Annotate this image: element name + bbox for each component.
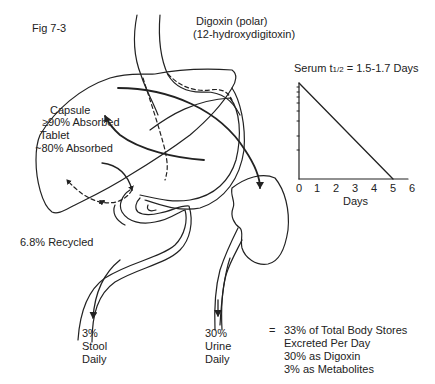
tablet-label: Tablet <box>40 129 69 142</box>
figure-label: Fig 7-3 <box>32 22 66 35</box>
x-tick-5: 5 <box>390 182 396 195</box>
x-tick-6: 6 <box>409 182 415 195</box>
stool-route: Stool <box>82 340 107 353</box>
capsule-label: Capsule <box>50 104 90 117</box>
graph-title-suffix: = 1.5-1.7 Days <box>344 62 419 74</box>
recycled-arrow-mid <box>100 201 104 203</box>
recycled-arrow <box>67 180 132 203</box>
graph-title-prefix: Serum t <box>294 62 333 74</box>
x-tick-4: 4 <box>371 182 377 195</box>
graph-title: Serum t1/2 = 1.5-1.7 Days <box>294 62 419 77</box>
stool-pct: 3% <box>82 327 98 340</box>
capsule-absorption: ≥90% Absorbed <box>42 116 120 129</box>
x-tick-1: 1 <box>314 182 320 195</box>
urine-pct: 30% <box>205 327 227 340</box>
urine-freq: Daily <box>205 353 229 366</box>
drug-name: Digoxin (polar) <box>196 15 268 28</box>
ureter <box>215 228 242 330</box>
drug-description: (12-hydroxydigitoxin) <box>193 28 295 41</box>
x-tick-3: 3 <box>352 182 358 195</box>
kidney <box>232 176 289 265</box>
summary-line-2: Excreted Per Day <box>284 337 370 350</box>
serum-graph <box>297 83 408 179</box>
summary-line-1: 33% of Total Body Stores <box>284 324 407 337</box>
urine-route: Urine <box>205 340 231 353</box>
x-tick-2: 2 <box>333 182 339 195</box>
stool-freq: Daily <box>82 353 106 366</box>
duodenum <box>78 190 191 342</box>
tablet-absorption: ~80% Absorbed <box>35 142 113 155</box>
summary-line-3: 30% as Digoxin <box>284 350 360 363</box>
summary-line-4: 3% as Metabolites <box>284 363 374 376</box>
x-axis-label: Days <box>343 195 368 208</box>
graph-title-subscript: 1/2 <box>333 65 344 74</box>
stomach <box>140 88 244 209</box>
absorption-arrow <box>105 116 204 160</box>
equals-sign: = <box>269 324 275 337</box>
x-tick-0: 0 <box>296 182 302 195</box>
recycled-label: 6.8% Recycled <box>20 236 93 249</box>
